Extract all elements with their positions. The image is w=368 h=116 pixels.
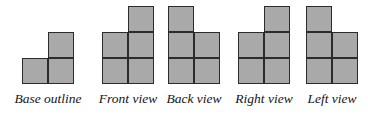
cube-cell (306, 32, 332, 58)
cube-cell (102, 32, 128, 58)
view-group-front-view: Front view (92, 0, 164, 116)
cube-grid-back-view (160, 0, 228, 88)
cube-cell (194, 58, 220, 84)
cube-cell (306, 58, 332, 84)
view-label-back-view: Back view (160, 90, 228, 107)
view-group-back-view: Back view (160, 0, 228, 116)
cube-cell (332, 58, 358, 84)
view-label-right-view: Right view (228, 90, 300, 107)
orthographic-views-figure: Base outlineFront viewBack viewRight vie… (0, 0, 368, 116)
cube-cell (128, 58, 154, 84)
cube-cell (168, 32, 194, 58)
cube-cell (238, 32, 264, 58)
view-group-right-view: Right view (228, 0, 300, 116)
cube-cell (264, 58, 290, 84)
cube-cell (264, 32, 290, 58)
view-label-base-outline: Base outline (4, 90, 92, 107)
cube-grid-base-outline (4, 0, 92, 88)
cube-cell (168, 58, 194, 84)
cube-cell (238, 58, 264, 84)
cube-cell (102, 58, 128, 84)
cube-grid-left-view (298, 0, 366, 88)
cube-cell (168, 6, 194, 32)
cube-cell (194, 32, 220, 58)
view-group-base-outline: Base outline (4, 0, 92, 116)
cube-cell (48, 58, 74, 84)
cube-cell (332, 32, 358, 58)
cube-cell (264, 6, 290, 32)
cube-cell (48, 32, 74, 58)
cube-cell (128, 6, 154, 32)
view-group-left-view: Left view (298, 0, 366, 116)
view-label-left-view: Left view (298, 90, 366, 107)
cube-grid-right-view (228, 0, 300, 88)
cube-grid-front-view (92, 0, 164, 88)
cube-cell (128, 32, 154, 58)
view-label-front-view: Front view (92, 90, 164, 107)
cube-cell (22, 58, 48, 84)
cube-cell (306, 6, 332, 32)
